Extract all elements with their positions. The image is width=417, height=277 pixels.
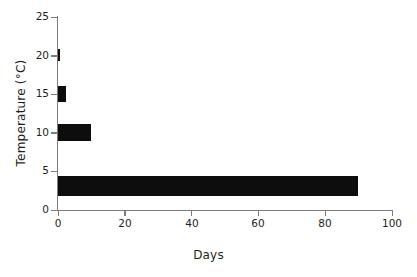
y-tick-20 xyxy=(51,55,58,56)
x-axis-title: Days xyxy=(0,248,417,262)
y-tick-15 xyxy=(51,94,58,95)
x-tick-0 xyxy=(58,210,59,216)
bar-chart: 0 5 10 15 20 25 0 20 40 60 80 100 xyxy=(0,0,417,277)
x-tick-label-0: 0 xyxy=(38,218,78,229)
x-tick-20 xyxy=(124,210,125,216)
bar-temp-3 xyxy=(58,176,358,196)
bar-temp-10 xyxy=(58,124,91,141)
x-tick-label-40: 40 xyxy=(172,218,212,229)
bar-temp-15 xyxy=(58,86,66,101)
y-tick-25 xyxy=(51,17,58,18)
x-tick-80 xyxy=(325,210,326,216)
x-tick-60 xyxy=(258,210,259,216)
x-tick-label-100: 100 xyxy=(372,218,412,229)
x-tick-40 xyxy=(191,210,192,216)
y-tick-5 xyxy=(51,171,58,172)
x-tick-label-80: 80 xyxy=(305,218,345,229)
bar-temp-20 xyxy=(58,49,60,61)
y-axis-title: Temperature (°C) xyxy=(14,18,28,208)
x-tick-100 xyxy=(392,210,393,216)
y-tick-10 xyxy=(51,132,58,133)
x-tick-label-60: 60 xyxy=(238,218,278,229)
plot-area: 0 5 10 15 20 25 0 20 40 60 80 100 xyxy=(0,0,417,277)
x-axis-line xyxy=(57,210,393,211)
x-tick-label-20: 20 xyxy=(105,218,145,229)
